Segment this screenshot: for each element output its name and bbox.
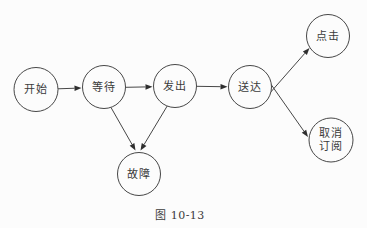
node-failure: 故障	[118, 153, 161, 196]
figure-caption: 图 10-13	[155, 206, 205, 222]
node-label: 故障	[127, 167, 151, 181]
arrowhead-icon	[141, 143, 147, 150]
arrowhead-icon	[145, 84, 152, 89]
node-label: 送达	[238, 80, 262, 94]
arrowhead-icon	[130, 143, 136, 150]
edge-line	[144, 106, 167, 145]
edge-wait-send	[126, 84, 153, 89]
node-label: 取消	[319, 126, 343, 140]
node-delivered: 送达	[229, 66, 272, 109]
node-click: 点击	[307, 15, 350, 58]
arrowhead-icon	[302, 130, 308, 137]
edge-send-failure	[141, 106, 168, 151]
node-label: 点击	[316, 30, 340, 43]
edge-send-delivered	[197, 84, 228, 89]
node-wait: 等待	[83, 66, 126, 109]
node-send: 发出	[154, 65, 197, 108]
arrowhead-icon	[74, 86, 81, 91]
node-label: 发出	[163, 79, 187, 93]
edge-wait-failure	[111, 108, 136, 151]
state-diagram: 开始等待发出送达点击取消订阅故障	[0, 0, 367, 228]
edge-line	[58, 88, 75, 89]
edge-start-wait	[58, 86, 82, 91]
figure-10-13: 开始等待发出送达点击取消订阅故障 图 10-13	[0, 0, 367, 228]
edge-line	[111, 108, 132, 145]
node-label: 开始	[24, 82, 48, 96]
node-label: 等待	[92, 80, 116, 94]
node-label: 订阅	[319, 140, 343, 153]
node-start: 开始	[14, 68, 58, 112]
node-unsubscribe: 取消订阅	[309, 118, 353, 162]
arrowhead-icon	[220, 84, 227, 89]
